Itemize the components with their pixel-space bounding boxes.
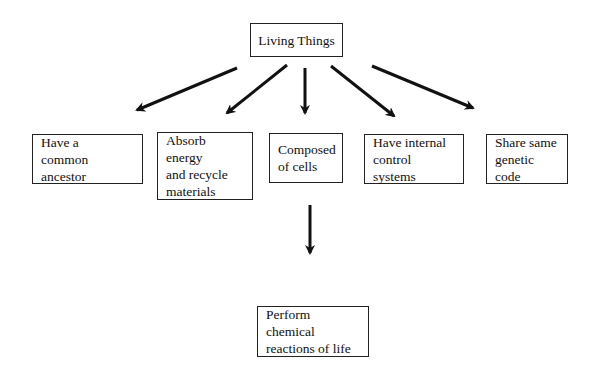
node-genetic-code: Share same genetic code (486, 134, 568, 184)
node-absorb-energy: Absorb energy and recycle materials (157, 132, 253, 200)
node-label: Composed of cells (278, 141, 336, 175)
arrow-to-absorb-energy (227, 65, 287, 113)
node-label: Absorb energy and recycle materials (166, 132, 244, 200)
node-chemical-reactions: Perform chemical reactions of life (257, 306, 369, 357)
node-internal-control: Have internal control systems (364, 134, 464, 184)
root-node-label: Living Things (258, 32, 335, 49)
arrow-to-internal-control (331, 66, 394, 116)
root-node-living-things: Living Things (250, 23, 343, 57)
node-label: Have internal control systems (373, 134, 455, 185)
node-label: Have a common ancestor (41, 134, 134, 185)
arrow-to-genetic-code (372, 66, 473, 108)
node-label: Share same genetic code (495, 134, 559, 185)
node-label: Perform chemical reactions of life (266, 306, 360, 357)
node-composed-of-cells: Composed of cells (269, 133, 343, 183)
node-common-ancestor: Have a common ancestor (32, 134, 143, 184)
arrow-to-common-ancestor (137, 68, 237, 110)
